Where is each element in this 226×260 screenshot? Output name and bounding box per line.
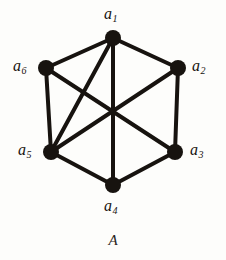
graph-canvas: [0, 0, 226, 260]
vertex-label-a4: a4: [104, 198, 117, 214]
vertex-label-base: a: [192, 57, 200, 74]
vertex-label-base: a: [190, 141, 198, 158]
vertex-label-a2: a2: [192, 58, 205, 74]
vertex-label-base: a: [18, 141, 26, 158]
graph-node-a6: [38, 60, 54, 76]
vertex-label-subscript: 4: [113, 205, 118, 216]
vertex-label-subscript: 6: [22, 65, 27, 76]
vertex-label-subscript: 1: [113, 13, 118, 24]
vertex-label-subscript: 2: [201, 65, 206, 76]
graph-edge-a4-a5: [51, 152, 113, 185]
vertex-label-subscript: 3: [199, 149, 204, 160]
graph-node-a1: [105, 30, 121, 46]
graph-figure: a1a2a3a4a5a6 A: [0, 0, 226, 260]
graph-node-a5: [43, 144, 59, 160]
vertex-label-base: a: [104, 197, 112, 214]
vertex-label-a3: a3: [190, 142, 203, 158]
vertex-label-a5: a5: [18, 142, 31, 158]
vertex-label-base: a: [13, 57, 21, 74]
vertex-label-a6: a6: [13, 58, 26, 74]
graph-edge-a1-a2: [113, 38, 178, 68]
graph-edge-a5-a6: [46, 68, 51, 152]
graph-node-a3: [167, 144, 183, 160]
vertex-label-a1: a1: [104, 6, 117, 22]
vertex-label-subscript: 5: [27, 149, 32, 160]
graph-node-a4: [105, 177, 121, 193]
graph-edge-a2-a3: [175, 68, 178, 152]
vertex-label-base: a: [104, 5, 112, 22]
graph-edge-a1-a5: [51, 38, 113, 152]
figure-caption: A: [0, 232, 226, 249]
graph-edge-a3-a4: [113, 152, 175, 185]
graph-node-a2: [170, 60, 186, 76]
edge-layer: [46, 38, 178, 185]
